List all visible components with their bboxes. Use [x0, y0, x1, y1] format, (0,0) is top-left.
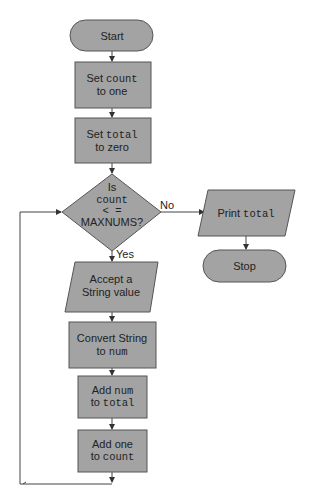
decision-line4: MAXNUMS? — [81, 216, 143, 228]
node-add-one: Add one to count — [78, 430, 147, 472]
node-label-line2: to zero — [95, 141, 129, 153]
flowchart: Start Set count to one Set total to zero… — [0, 0, 322, 496]
process-shape — [69, 322, 156, 368]
node-label-line2: String value — [82, 286, 140, 298]
node-label-line1: Add one — [92, 438, 133, 450]
node-label-line2: to num — [96, 345, 127, 358]
decision-line1: Is — [108, 181, 117, 193]
node-set-total: Set total to zero — [75, 118, 151, 163]
node-accept: Accept a String value — [65, 262, 158, 312]
node-set-count: Set count to one — [75, 62, 151, 108]
node-label-line2: to one — [97, 85, 128, 97]
node-label-line1: Set total — [86, 128, 137, 141]
node-decision: Is count < = MAXNUMS? — [62, 174, 161, 251]
node-label-line1: Accept a — [90, 273, 134, 285]
node-label-line1: Convert String — [77, 332, 147, 344]
node-label-line2: to count — [91, 450, 135, 463]
node-stop: Stop — [203, 250, 286, 282]
edge-label-no: No — [160, 199, 174, 211]
node-start: Start — [70, 20, 153, 51]
node-label: Print total — [217, 207, 274, 220]
node-label: Start — [100, 30, 123, 42]
node-label-line2: to total — [91, 396, 135, 409]
node-add-num: Add num to total — [78, 376, 147, 418]
node-convert: Convert String to num — [69, 322, 156, 368]
node-label: Stop — [233, 260, 256, 272]
node-label-line1: Set count — [86, 72, 137, 85]
node-print-total: Print total — [198, 190, 295, 236]
edge-label-yes: Yes — [116, 248, 134, 260]
